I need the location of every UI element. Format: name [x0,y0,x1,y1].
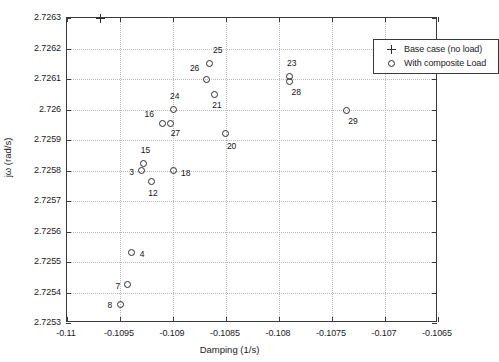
y-tick-mark [432,110,437,111]
data-point-label: 8 [108,300,113,310]
data-point-marker [167,120,174,127]
data-point-label: 25 [213,45,222,55]
gridline-horizontal [67,140,436,141]
y-tick-label: 2.7255 [18,256,61,266]
data-point-label: 23 [287,58,296,68]
legend[interactable]: Base case (no load) With composite Load [373,39,499,74]
data-point-marker [148,178,155,185]
x-tick-label: -0.108 [266,328,291,338]
x-tick-mark [279,317,280,322]
data-point-marker [128,249,135,256]
x-tick-mark [120,317,121,322]
data-point-marker [206,60,213,67]
circle-marker-icon [378,57,404,69]
gridline-horizontal [67,79,436,80]
y-tick-mark [66,18,71,19]
y-tick-label: 2.7256 [18,226,61,236]
data-point-marker [140,160,147,167]
y-tick-mark [66,201,71,202]
data-point-marker [286,78,293,85]
y-tick-mark [66,110,71,111]
data-point-marker [203,76,210,83]
gridline-horizontal [67,110,436,111]
plus-marker-icon [378,43,404,55]
y-tick-mark [432,323,437,324]
y-tick-mark [432,171,437,172]
x-axis-title: Damping (1/s) [0,344,459,355]
y-tick-mark [432,140,437,141]
y-tick-mark [66,171,71,172]
gridline-vertical [332,18,333,321]
x-tick-label: -0.1085 [210,328,240,338]
y-tick-label: 2.7254 [18,287,61,297]
data-point-label: 26 [190,63,199,73]
x-tick-mark [385,17,386,22]
y-tick-mark [432,232,437,233]
data-point-marker [124,281,131,288]
data-point-label: 29 [348,116,357,126]
data-point-label: 18 [181,168,190,178]
y-tick-mark [66,262,71,263]
x-tick-mark [173,317,174,322]
y-tick-mark [432,18,437,19]
x-tick-mark [120,17,121,22]
y-tick-mark [432,201,437,202]
y-tick-label: 2.7262 [18,43,61,53]
data-point-label: 4 [140,249,145,259]
data-point-label: 24 [170,91,179,101]
y-tick-mark [432,293,437,294]
data-point-marker [96,14,105,23]
data-point-marker [138,167,145,174]
data-point-label: 28 [292,87,301,97]
x-tick-mark [67,317,68,322]
y-tick-mark [66,232,71,233]
x-tick-mark [279,17,280,22]
x-tick-mark [332,17,333,22]
x-tick-label: -0.1075 [316,328,346,338]
x-tick-label: -0.1095 [104,328,134,338]
data-point-label: 27 [171,128,180,138]
y-tick-label: 2.726 [18,104,61,114]
gridline-vertical [120,18,121,321]
data-point-label: 12 [148,188,157,198]
data-point-marker [170,167,177,174]
data-point-marker [343,107,350,114]
legend-label-base-case: Base case (no load) [404,44,482,54]
legend-label-composite-load: With composite Load [404,58,486,68]
y-tick-mark [66,79,71,80]
x-tick-mark [226,317,227,322]
y-tick-label: 2.7258 [18,165,61,175]
data-point-label: 7 [115,281,120,291]
data-point-label: 20 [227,141,236,151]
data-point-label: 3 [129,167,134,177]
y-tick-label: 2.7257 [18,195,61,205]
x-tick-label: -0.1065 [422,328,452,338]
x-tick-mark [173,17,174,22]
x-tick-label: -0.107 [372,328,397,338]
y-axis-title: jω (rad/s) [2,103,13,213]
plot-area: 252621232824291627201531812478 Base case… [66,17,437,322]
data-point-marker [211,91,218,98]
x-tick-label: -0.109 [160,328,185,338]
y-tick-mark [432,79,437,80]
y-tick-mark [66,323,71,324]
gridline-horizontal [67,293,436,294]
gridline-horizontal [67,262,436,263]
gridline-vertical [279,18,280,321]
legend-entry-composite-load: With composite Load [374,56,498,70]
data-point-label: 16 [145,109,154,119]
y-tick-label: 2.7253 [18,317,61,327]
y-tick-label: 2.7259 [18,134,61,144]
data-point-marker [117,301,124,308]
gridline-vertical [226,18,227,321]
y-tick-mark [66,49,71,50]
data-point-marker [159,120,166,127]
x-tick-label: -0.11 [56,328,75,338]
data-point-marker [222,130,229,137]
legend-entry-base-case: Base case (no load) [374,42,498,56]
gridline-horizontal [67,171,436,172]
x-tick-mark [385,317,386,322]
y-tick-label: 2.7263 [18,12,61,22]
data-point-label: 21 [212,100,221,110]
